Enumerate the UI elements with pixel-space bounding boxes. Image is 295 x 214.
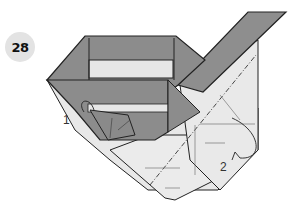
origami-diagram: 1 2	[0, 0, 295, 214]
step-label-2: 2	[220, 160, 227, 174]
step-label-1: 1	[63, 113, 70, 127]
paper-top-inner-strip	[89, 60, 173, 78]
